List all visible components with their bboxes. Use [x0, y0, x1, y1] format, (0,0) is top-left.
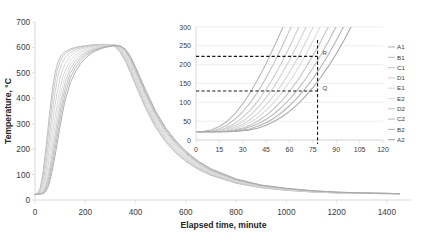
legend-label-a1: A1 — [397, 43, 405, 50]
inset-y-tick-label: 150 — [179, 80, 191, 87]
main-y-tick-label: 700 — [16, 18, 30, 27]
inset-y-tick-label: 50 — [183, 118, 191, 125]
legend-label-e2: E2 — [397, 95, 405, 102]
inset-x-tick-label: 45 — [262, 146, 270, 153]
main-y-tick-label: 500 — [16, 69, 30, 78]
main-y-tick-label: 300 — [16, 120, 30, 129]
inset-x-tick-label: 105 — [354, 146, 366, 153]
main-y-tick-label: 400 — [16, 94, 30, 103]
main-y-tick-label: 100 — [16, 171, 30, 180]
legend-label-d2: D2 — [397, 105, 405, 112]
main-y-tick-label: 0 — [25, 196, 30, 205]
inset-y-tick-label: 250 — [179, 42, 191, 49]
main-x-tick-label: 1000 — [277, 208, 296, 217]
figure-root: 0100200300400500600700020040060080010001… — [0, 0, 422, 246]
legend-label-b2: B2 — [397, 126, 405, 133]
legend-label-c2: C2 — [397, 115, 405, 122]
inset-y-tick-label: 300 — [179, 24, 191, 31]
inset-x-tick-label: 15 — [215, 146, 223, 153]
inset-x-tick-label: 30 — [239, 146, 247, 153]
inset-x-tick-label: 90 — [332, 146, 340, 153]
main-x-tick-label: 1400 — [378, 208, 397, 217]
legend-label-d1: D1 — [397, 74, 405, 81]
legend-label-e1: E1 — [397, 84, 405, 91]
main-y-axis-title: Temperature, °C — [3, 78, 13, 144]
main-x-tick-label: 200 — [78, 208, 92, 217]
legend-label-b1: B1 — [397, 54, 405, 61]
main-x-tick-label: 600 — [179, 208, 193, 217]
main-x-tick-label: 400 — [129, 208, 143, 217]
inset-y-tick-label: 100 — [179, 99, 191, 106]
inset-y-tick-label: 0 — [187, 137, 191, 144]
inset-x-tick-label: 120 — [377, 146, 389, 153]
legend-label-a2: A2 — [397, 136, 405, 143]
inset-y-tick-label: 200 — [179, 61, 191, 68]
main-y-tick-label: 200 — [16, 145, 30, 154]
legend-label-c1: C1 — [397, 64, 405, 71]
main-x-tick-label: 800 — [229, 208, 243, 217]
main-y-tick-label: 600 — [16, 43, 30, 52]
inset-annotation-r: R — [323, 50, 328, 56]
main-x-axis-title: Elapsed time, minute — [181, 220, 267, 230]
inset-annotation-q: Q — [323, 85, 328, 91]
main-x-tick-label: 1200 — [327, 208, 346, 217]
main-x-tick-label: 0 — [33, 208, 38, 217]
inset-x-tick-label: 75 — [309, 146, 317, 153]
inset-x-tick-label: 0 — [194, 146, 198, 153]
inset-x-tick-label: 60 — [286, 146, 294, 153]
